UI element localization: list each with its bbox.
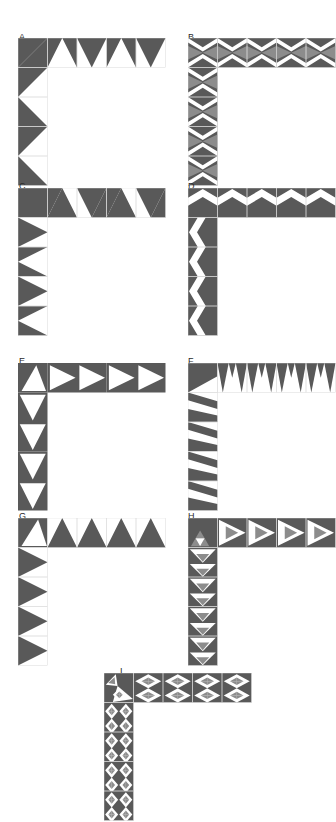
panel-art-c [18, 188, 166, 336]
panel-art-f [188, 363, 336, 511]
panel-art-e [18, 363, 166, 511]
panel-art-i [104, 673, 252, 821]
panel-art-h [188, 518, 336, 666]
panel-art-b [188, 38, 336, 186]
panel-art-g [18, 518, 166, 666]
panel-art-d [188, 188, 336, 336]
panel-art-a [18, 38, 166, 186]
